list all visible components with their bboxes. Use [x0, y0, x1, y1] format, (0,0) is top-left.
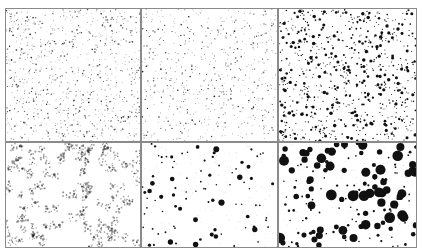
dot [363, 182, 366, 185]
dot [365, 189, 374, 198]
speck [84, 182, 86, 184]
dot [143, 17, 144, 18]
speck [31, 204, 32, 205]
dot [160, 113, 161, 114]
dot [284, 106, 286, 108]
dot [36, 97, 37, 98]
dot [10, 21, 11, 22]
speck [406, 177, 407, 178]
dot [396, 172, 398, 174]
speck [6, 194, 7, 195]
dot [381, 220, 386, 225]
dot [230, 34, 231, 35]
dot [286, 196, 288, 198]
dot [179, 121, 180, 122]
dot [93, 91, 94, 92]
dot [153, 244, 155, 246]
dot [206, 74, 207, 75]
dot [375, 85, 376, 86]
dot [173, 161, 175, 163]
dot [328, 57, 329, 58]
dot [385, 87, 386, 88]
dot [86, 132, 87, 133]
dot [336, 90, 337, 91]
speck [107, 152, 108, 153]
speck [177, 163, 178, 164]
dot [251, 64, 252, 65]
dot [199, 238, 202, 241]
dot [366, 69, 367, 70]
dot [41, 52, 42, 53]
dot [83, 44, 84, 45]
dot [12, 92, 13, 93]
dot [75, 113, 76, 114]
speck [20, 163, 21, 164]
dot [74, 120, 75, 121]
dot [16, 12, 17, 13]
dot [385, 70, 386, 71]
speck [124, 204, 126, 206]
cluster-core [100, 228, 101, 229]
dot [91, 69, 92, 70]
dot [185, 198, 187, 200]
dot [76, 29, 78, 31]
speck [109, 240, 111, 242]
dot [234, 21, 235, 22]
dot [129, 111, 130, 112]
dot [74, 10, 75, 11]
speck [99, 220, 100, 221]
dot [84, 136, 85, 137]
dot [127, 118, 128, 119]
dot [392, 246, 394, 247]
dot [19, 79, 20, 80]
dot [317, 227, 324, 234]
dot [7, 12, 8, 13]
dot [374, 34, 376, 36]
dot [255, 204, 257, 206]
dot-field-e [142, 143, 277, 247]
speck [90, 148, 92, 150]
dot [364, 140, 366, 141]
dot [235, 203, 237, 205]
dot [190, 114, 191, 115]
dot [318, 96, 319, 97]
speck [38, 151, 39, 152]
dot [124, 12, 125, 13]
dot [136, 17, 137, 18]
speck [121, 236, 123, 238]
speck [124, 240, 126, 242]
dot [247, 66, 248, 67]
speck [124, 189, 125, 190]
dot [325, 71, 326, 72]
dot [381, 34, 383, 36]
speck [351, 170, 352, 171]
dot [394, 172, 396, 174]
dot [72, 71, 73, 72]
dot [237, 48, 238, 49]
dot [77, 123, 78, 124]
dot [144, 135, 145, 136]
speck [73, 147, 75, 149]
dot [414, 92, 415, 93]
dot [6, 31, 7, 32]
dot [301, 157, 307, 163]
dot [400, 91, 403, 94]
dot [202, 26, 203, 27]
dot [116, 82, 117, 83]
dot [218, 74, 219, 75]
dot [384, 85, 385, 86]
dot [40, 42, 41, 43]
dot [60, 115, 61, 116]
dot [85, 118, 86, 119]
speck [68, 213, 70, 215]
cluster-core [41, 185, 43, 187]
dot [11, 59, 13, 61]
dot [208, 85, 209, 86]
dot [33, 130, 34, 131]
dot [37, 113, 39, 115]
dot [150, 89, 151, 90]
dot [303, 18, 305, 20]
dot [336, 184, 338, 186]
dot [409, 161, 416, 168]
dot [16, 50, 17, 51]
